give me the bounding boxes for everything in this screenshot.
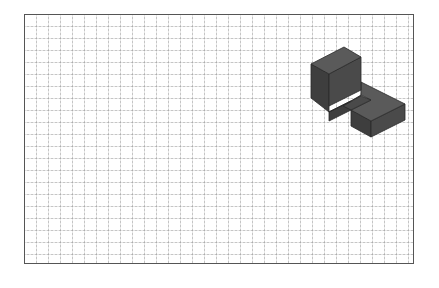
isometric-block-figure: [0, 0, 439, 288]
